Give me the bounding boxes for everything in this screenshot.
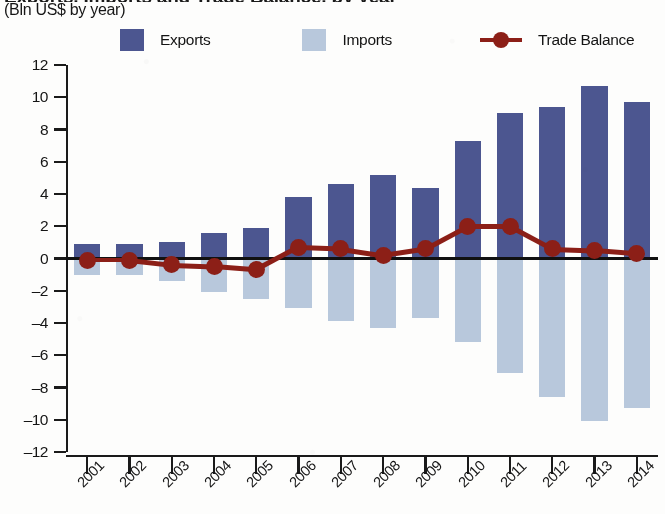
bar-imports xyxy=(624,259,650,409)
bar-imports xyxy=(370,259,396,328)
y-axis-label: 10 xyxy=(8,88,48,106)
chart-root: Exports, Imports and Trade Balance, by y… xyxy=(0,0,665,514)
bar-exports xyxy=(624,102,650,258)
x-axis-label: 2014 xyxy=(624,457,657,490)
bar-imports xyxy=(455,259,481,343)
y-tick xyxy=(54,419,66,421)
y-axis-label: –6 xyxy=(8,346,48,364)
bar-imports xyxy=(285,259,311,309)
y-axis-label: –8 xyxy=(8,379,48,397)
trade-balance-point xyxy=(459,218,476,235)
y-tick xyxy=(54,64,66,66)
bar-exports xyxy=(455,141,481,259)
bar-imports xyxy=(497,259,523,373)
bar-exports xyxy=(497,113,523,258)
y-tick xyxy=(54,161,66,163)
x-axis-line xyxy=(66,455,658,457)
x-axis-label: 2008 xyxy=(370,457,403,490)
y-tick xyxy=(54,354,66,356)
x-axis-label: 2009 xyxy=(412,457,445,490)
bar-imports xyxy=(581,259,607,422)
y-tick xyxy=(54,386,66,388)
trade-balance-point xyxy=(502,218,519,235)
y-axis-label: –10 xyxy=(8,411,48,429)
y-tick xyxy=(54,257,66,259)
bar-exports xyxy=(581,86,607,259)
y-tick xyxy=(54,225,66,227)
y-axis-label: –12 xyxy=(8,443,48,461)
y-axis-label: 12 xyxy=(8,56,48,74)
trade-balance-point xyxy=(544,240,561,257)
y-axis-label: –2 xyxy=(8,282,48,300)
zero-axis-line xyxy=(66,257,658,259)
bar-imports xyxy=(539,259,565,398)
bar-exports xyxy=(243,228,269,259)
x-axis-label: 2003 xyxy=(159,457,192,490)
x-axis-label: 2013 xyxy=(582,457,615,490)
x-axis-label: 2001 xyxy=(74,457,107,490)
trade-balance-point xyxy=(121,252,138,269)
trade-balance-point xyxy=(248,261,265,278)
y-tick xyxy=(54,128,66,130)
bar-imports xyxy=(328,259,354,322)
x-axis-label: 2006 xyxy=(286,457,319,490)
bar-exports xyxy=(201,233,227,259)
y-axis-label: 8 xyxy=(8,121,48,139)
trade-balance-point xyxy=(375,247,392,264)
y-axis-label: 4 xyxy=(8,185,48,203)
x-axis-label: 2002 xyxy=(116,457,149,490)
x-axis-label: 2010 xyxy=(455,457,488,490)
x-axis-label: 2004 xyxy=(201,457,234,490)
trade-balance-point xyxy=(79,252,96,269)
trade-balance-point xyxy=(586,242,603,259)
y-axis-label: 0 xyxy=(8,250,48,268)
trade-balance-point xyxy=(290,239,307,256)
y-axis-label: –4 xyxy=(8,314,48,332)
plot-area: 121086420–2–4–6–8–10–1220012002200320042… xyxy=(0,0,665,514)
y-tick xyxy=(54,193,66,195)
trade-balance-point xyxy=(206,258,223,275)
y-tick xyxy=(54,96,66,98)
bar-imports xyxy=(412,259,438,319)
x-axis-label: 2011 xyxy=(497,458,529,490)
x-axis-label: 2005 xyxy=(243,457,276,490)
bar-exports xyxy=(539,107,565,259)
y-tick xyxy=(54,451,66,453)
y-tick xyxy=(54,290,66,292)
x-axis-label: 2007 xyxy=(328,457,361,490)
x-axis-label: 2012 xyxy=(539,457,572,490)
y-axis-label: 6 xyxy=(8,153,48,171)
y-axis-label: 2 xyxy=(8,217,48,235)
y-tick xyxy=(54,322,66,324)
bar-exports xyxy=(370,175,396,259)
